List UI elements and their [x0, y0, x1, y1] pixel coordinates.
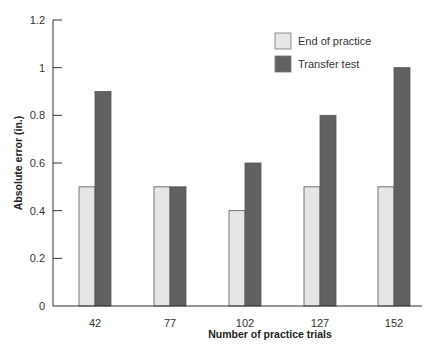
y-tick-label: 0.4: [30, 205, 45, 217]
x-axis: 4277102127152: [53, 306, 422, 329]
bar-transfer-test: [245, 163, 261, 306]
y-tick-label: 0.8: [30, 109, 45, 121]
bar-end-of-practice: [304, 187, 320, 306]
legend-swatch: [275, 56, 291, 72]
legend-label: Transfer test: [298, 58, 359, 70]
bar-transfer-test: [320, 115, 336, 306]
y-tick-label: 1: [39, 62, 45, 74]
legend: End of practiceTransfer test: [275, 33, 371, 72]
bar-end-of-practice: [154, 187, 170, 306]
bars: [79, 68, 410, 306]
bar-transfer-test: [170, 187, 186, 306]
bar-chart: 00.20.40.60.811.2 4277102127152 End of p…: [0, 0, 437, 354]
bar-transfer-test: [394, 68, 410, 306]
y-axis: 00.20.40.60.811.2: [30, 14, 62, 312]
bar-end-of-practice: [229, 211, 245, 306]
y-tick-label: 0: [39, 300, 45, 312]
y-tick-label: 1.2: [30, 14, 45, 26]
x-tick-label: 152: [385, 317, 403, 329]
bar-end-of-practice: [378, 187, 394, 306]
y-tick-label: 0.2: [30, 252, 45, 264]
x-tick-label: 42: [89, 317, 101, 329]
x-tick-label: 77: [164, 317, 176, 329]
bar-end-of-practice: [79, 187, 95, 306]
y-tick-label: 0.6: [30, 157, 45, 169]
bar-transfer-test: [95, 92, 111, 307]
legend-swatch: [275, 33, 291, 49]
x-axis-label: Number of practice trials: [208, 328, 332, 340]
y-axis-label: Absolute error (in.): [12, 116, 24, 211]
legend-label: End of practice: [298, 35, 371, 47]
